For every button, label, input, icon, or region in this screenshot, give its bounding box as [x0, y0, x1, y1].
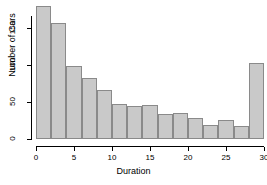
histogram-figure: Number of Cars 050100150 051015202530 Du… — [0, 0, 267, 185]
x-tick-mark — [188, 147, 189, 151]
x-tick-label: 0 — [26, 153, 46, 162]
y-tick-label: 50 — [8, 89, 17, 113]
x-axis-label: Duration — [0, 166, 267, 176]
x-tick-mark — [36, 147, 37, 151]
y-tick-mark — [27, 65, 31, 66]
histogram-bar — [173, 113, 188, 139]
histogram-bar — [234, 126, 249, 139]
histogram-bar — [82, 78, 97, 139]
x-tick-label: 20 — [178, 153, 198, 162]
histogram-bar — [66, 66, 81, 139]
x-tick-label: 5 — [64, 153, 84, 162]
x-tick-label: 25 — [216, 153, 236, 162]
histogram-bar — [142, 105, 157, 139]
y-axis-line — [31, 16, 32, 140]
y-axis-label: Number of Cars — [7, 0, 17, 95]
histogram-bar — [203, 125, 218, 139]
histogram-bar — [249, 63, 264, 139]
histogram-bar — [97, 90, 112, 139]
histogram-bar — [112, 104, 127, 139]
x-tick-mark — [264, 147, 265, 151]
y-tick-label: 100 — [8, 52, 17, 76]
x-tick-label: 15 — [140, 153, 160, 162]
y-tick-mark — [27, 28, 31, 29]
x-tick-mark — [226, 147, 227, 151]
x-tick-mark — [74, 147, 75, 151]
x-tick-mark — [150, 147, 151, 151]
histogram-bar — [51, 23, 66, 139]
x-tick-mark — [112, 147, 113, 151]
y-tick-mark — [27, 139, 31, 140]
histogram-bar — [218, 120, 233, 139]
plot-area — [36, 2, 264, 139]
y-tick-mark — [27, 102, 31, 103]
y-tick-label: 0 — [8, 127, 17, 151]
histogram-bar — [158, 114, 173, 139]
histogram-bar — [127, 106, 142, 139]
x-tick-label: 10 — [102, 153, 122, 162]
histogram-bar — [188, 118, 203, 139]
histogram-bar — [36, 6, 51, 139]
y-tick-label: 150 — [8, 15, 17, 39]
x-tick-label: 30 — [254, 153, 267, 162]
